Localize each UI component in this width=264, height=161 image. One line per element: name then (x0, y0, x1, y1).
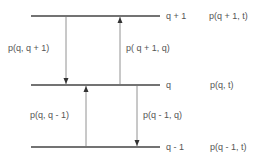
arrow-down-q-to-q-1 (135, 86, 140, 146)
transition-label-q-1-to-q: p(q - 1, q) (143, 110, 182, 120)
transition-label-q-to-q-1: p(q, q - 1) (30, 110, 69, 120)
arrow-up-q-1-to-q (84, 86, 89, 146)
state-label-q-minus-1: q - 1 (166, 142, 184, 152)
transition-label-q+1-to-q: p( q + 1, q) (126, 43, 170, 53)
state-label-q: q (166, 80, 171, 90)
transition-label-q-to-q+1: p(q, q + 1) (8, 43, 49, 53)
prob-label-q-plus-1: p(q + 1, t) (209, 11, 248, 21)
arrow-down-q+1-to-q (64, 17, 69, 84)
prob-label-q-minus-1: p(q - 1, t) (210, 142, 247, 152)
arrow-up-q-to-q+1 (118, 17, 123, 84)
state-label-q-plus-1: q + 1 (166, 11, 186, 21)
prob-label-q: p(q, t) (210, 80, 234, 90)
